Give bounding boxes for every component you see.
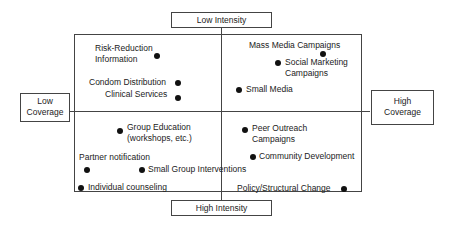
dot-community-development [250, 154, 256, 160]
item-group-education: Group Education (workshops, etc.) [127, 122, 192, 144]
dot-small-group [139, 167, 145, 173]
dot-policy-structural [341, 186, 347, 192]
low-label: Low [21, 96, 69, 107]
item-condom-distribution: Condom Distribution [89, 77, 166, 88]
coverage-label: Coverage [372, 107, 433, 118]
item-peer-outreach: Peer Outreach Campaigns [252, 123, 307, 145]
dot-small-media [236, 87, 242, 93]
dot-social-marketing [275, 60, 281, 66]
dot-peer-outreach [242, 127, 248, 133]
coverage-label: Coverage [21, 107, 69, 118]
item-label: Campaigns [285, 68, 348, 79]
high-label: High [372, 96, 433, 107]
axis-label-high-coverage: High Coverage [371, 90, 434, 125]
item-risk-reduction: Risk-Reduction Information [95, 43, 153, 65]
item-label: Social Marketing [285, 57, 348, 68]
dot-partner-notification [84, 167, 90, 173]
item-partner-notification: Partner notification [79, 152, 150, 163]
dot-group-education [117, 128, 123, 134]
item-individual-counseling: Individual counseling [88, 182, 167, 193]
item-label: Risk-Reduction [95, 43, 153, 54]
item-small-group: Small Group Interventions [148, 164, 246, 175]
item-small-media: Small Media [246, 84, 293, 95]
item-clinical-services: Clinical Services [105, 89, 167, 100]
item-label: Group Education [127, 122, 192, 133]
horizontal-axis-line [68, 111, 370, 112]
item-label: Campaigns [252, 134, 307, 145]
axis-label-high-intensity: High Intensity [171, 200, 272, 216]
dot-condom-distribution [175, 80, 181, 86]
dot-risk-reduction [154, 53, 160, 59]
dot-individual-counseling [78, 185, 84, 191]
item-policy-structural: Policy/Structural Change [237, 183, 331, 194]
axis-label-low-coverage: Low Coverage [20, 93, 70, 122]
item-label: (workshops, etc.) [127, 133, 192, 144]
dot-clinical-services [175, 95, 181, 101]
item-social-marketing: Social Marketing Campaigns [285, 57, 348, 79]
item-community-development: Community Development [259, 151, 354, 162]
item-mass-media: Mass Media Campaigns [249, 40, 340, 51]
item-label: Peer Outreach [252, 123, 307, 134]
vertical-axis-line [221, 26, 222, 202]
item-label: Information [95, 54, 153, 65]
axis-label-low-intensity: Low Intensity [171, 12, 272, 28]
